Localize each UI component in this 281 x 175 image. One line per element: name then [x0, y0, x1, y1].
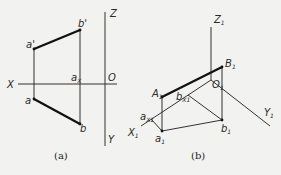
label-b1: b1	[221, 123, 231, 135]
label-B1: B1	[225, 58, 236, 70]
label-y1: Y1	[264, 107, 274, 119]
line-bx1-b1	[188, 95, 222, 120]
label-x: X	[6, 79, 15, 90]
projection-diagram: X Z Y O a' b' a b aX (a) Z1 B1 O1 A1 bX1…	[0, 0, 281, 175]
label-A1: A1	[151, 88, 163, 100]
caption-b: (b)	[191, 150, 205, 161]
label-a-prime: a'	[26, 39, 35, 50]
segment-a-prime-b-prime	[34, 30, 80, 49]
point-a	[33, 98, 36, 101]
label-o: O	[108, 72, 116, 83]
segment-a1-b1	[162, 120, 222, 131]
label-x1: X1	[127, 127, 139, 139]
point-B1	[221, 66, 224, 69]
label-a1: a1	[155, 133, 165, 145]
point-a1	[161, 130, 164, 133]
label-z: Z	[109, 8, 118, 19]
label-b: b	[80, 123, 86, 134]
label-ax1: aX1	[140, 111, 154, 123]
label-z1: Z1	[213, 14, 225, 26]
point-b-prime	[79, 29, 82, 32]
figure-a: X Z Y O a' b' a b aX (a)	[6, 8, 118, 161]
label-a: a	[25, 95, 31, 106]
figure-b: Z1 B1 O1 A1 bX1 aX1 X1 Y1 a1 b1 (b)	[127, 14, 274, 161]
segment-a-b	[34, 99, 80, 124]
caption-a: (a)	[54, 150, 68, 161]
label-bx1: bX1	[176, 91, 190, 103]
label-y: Y	[108, 134, 115, 145]
point-b1	[221, 119, 224, 122]
label-b-prime: b'	[78, 18, 87, 29]
